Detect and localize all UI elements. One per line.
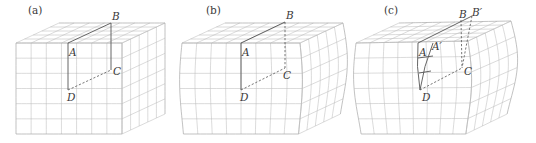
point-label-D: D xyxy=(66,91,76,103)
side-grid-vertical xyxy=(482,33,490,126)
front-grid-horizontal xyxy=(356,103,470,104)
side-grid-horizontal xyxy=(301,38,345,58)
point-label-D: D xyxy=(239,91,249,103)
top-grid-line xyxy=(440,22,483,42)
plane-edge-D-C xyxy=(420,68,462,90)
top-grid-line xyxy=(412,22,455,42)
side-grid-horizontal xyxy=(466,114,507,134)
point-label-C: C xyxy=(464,65,472,77)
plane-edge-D-C xyxy=(241,68,285,90)
point-label-B-prime: B′ xyxy=(471,6,483,18)
point-label-B: B xyxy=(285,9,294,21)
panel-a-undeformed-cube: ABCD(a) xyxy=(16,4,165,134)
side-grid-vertical xyxy=(332,27,338,118)
side-grid-horizontal xyxy=(471,68,517,88)
top-grid-line xyxy=(370,23,413,43)
top-grid-line xyxy=(356,23,399,43)
point-label-A: A xyxy=(68,46,77,58)
point-label-A: A xyxy=(241,46,250,58)
top-grid-line xyxy=(426,22,469,42)
point-label-D: D xyxy=(421,91,431,103)
top-grid-line xyxy=(454,21,497,41)
cube-deformation-diagram: ABCD(a) ABCD(b) AA′BB′CD(c) xyxy=(0,0,536,143)
point-label-B: B xyxy=(458,8,467,20)
panel-c-sheared-cube: AA′BB′CD(c) xyxy=(354,4,518,134)
strain-figure: ABCD(a) ABCD(b) AA′BB′CD(c) xyxy=(0,0,536,143)
panel-label-c: (c) xyxy=(384,4,398,16)
point-label-B: B xyxy=(111,10,120,22)
top-grid-line xyxy=(384,23,427,43)
point-label-A-prime: A′ xyxy=(431,40,443,52)
panel-label-a: (a) xyxy=(28,4,42,16)
side-grid-horizontal xyxy=(122,84,165,104)
plane-edge-B-C xyxy=(461,20,462,68)
side-grid-vertical xyxy=(474,37,481,130)
side-grid-vertical xyxy=(499,25,509,118)
side-grid-horizontal xyxy=(122,69,165,89)
side-grid-horizontal xyxy=(122,114,165,134)
side-grid-horizontal xyxy=(302,53,347,73)
panel-b-deformed-cube: ABCD(b) xyxy=(180,4,348,134)
panel-label-b: (b) xyxy=(206,4,221,16)
side-grid-vertical xyxy=(324,31,330,122)
plane-edge-D-C xyxy=(68,70,111,90)
side-grid-horizontal xyxy=(468,21,511,41)
point-label-C: C xyxy=(113,65,121,77)
side-grid-horizontal xyxy=(302,69,347,89)
side-grid-vertical xyxy=(491,29,500,122)
point-label-A: A xyxy=(418,46,427,58)
point-label-C: C xyxy=(283,69,291,81)
side-grid-horizontal xyxy=(122,38,165,58)
side-grid-horizontal xyxy=(122,99,165,119)
side-grid-horizontal xyxy=(471,52,517,72)
side-grid-vertical xyxy=(507,21,517,114)
side-grid-horizontal xyxy=(299,114,341,134)
side-grid-vertical xyxy=(340,23,347,114)
plane-edge-A-B xyxy=(68,23,111,43)
side-grid-horizontal xyxy=(122,53,165,73)
